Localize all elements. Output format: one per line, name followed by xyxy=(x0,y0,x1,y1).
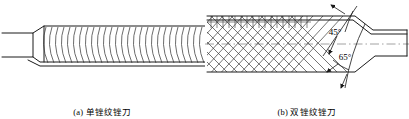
upcut-hatch-group xyxy=(205,0,365,90)
panel-double-cut-file: 45° 65° (b) 双锉纹锉刀 xyxy=(205,0,409,119)
angle-65-label: 65° xyxy=(339,52,352,62)
tang-outline xyxy=(2,33,33,57)
double-cut-file-drawing: 45° 65° xyxy=(205,0,409,100)
angle-45-annotation: 45° xyxy=(323,5,357,56)
body-bottom-edge xyxy=(28,60,205,66)
angle-45-leader-upper xyxy=(331,5,345,14)
caption-panel-b: (b) 双锉纹锉刀 xyxy=(205,105,409,117)
angle-65-leader-left xyxy=(327,64,338,72)
panel-single-cut-file: (a) 单锉纹锉刀 xyxy=(0,0,205,119)
single-cut-teeth-group xyxy=(43,27,204,63)
single-cut-file-drawing xyxy=(0,0,205,100)
overcut-hatch-group xyxy=(205,0,365,90)
caption-panel-a: (a) 单锉纹锉刀 xyxy=(0,105,205,117)
figure-container: (a) 单锉纹锉刀 xyxy=(0,0,409,119)
angle-45-label: 45° xyxy=(329,27,342,37)
bottom-edge xyxy=(207,56,407,72)
body-top-edge xyxy=(33,26,205,33)
